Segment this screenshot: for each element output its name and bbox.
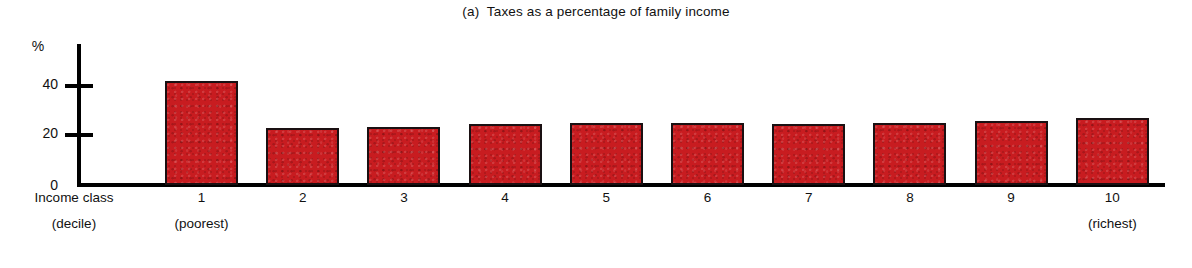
x-axis-label-number: 1	[143, 185, 260, 211]
x-axis-label-number: 3	[345, 185, 462, 211]
x-axis-label-group-3: 3	[345, 185, 462, 211]
x-axis-label-group-5: 5	[548, 185, 665, 211]
x-axis-label-group-1: 1(poorest)	[143, 185, 260, 237]
x-axis-label-number: 4	[447, 185, 564, 211]
x-axis-label-number: 5	[548, 185, 665, 211]
x-axis-label-number: 2	[244, 185, 361, 211]
plot-area: % 40 20 0	[0, 0, 1192, 200]
bar-chart-figure: (a) Taxes as a percentage of family inco…	[0, 0, 1192, 268]
bar-decile-6	[671, 123, 744, 185]
bars-layer	[0, 0, 1192, 185]
x-axis-label-number: 7	[750, 185, 867, 211]
x-axis-label-group-6: 6	[649, 185, 766, 211]
x-axis-label-group-2: 2	[244, 185, 361, 211]
bar-decile-1	[165, 81, 238, 185]
x-axis-label-group-8: 8	[851, 185, 968, 211]
bar-decile-10	[1076, 118, 1149, 185]
bar-decile-4	[469, 124, 542, 185]
bar-decile-3	[367, 127, 440, 185]
bar-decile-9	[975, 121, 1048, 185]
x-axis-label-note: (richest)	[1054, 211, 1171, 237]
x-axis-label-group-4: 4	[447, 185, 564, 211]
x-axis-label-number: 10	[1054, 185, 1171, 211]
x-axis-label-note: (poorest)	[143, 211, 260, 237]
x-axis-label-group-9: 9	[953, 185, 1070, 211]
bar-decile-5	[570, 123, 643, 185]
x-axis-label-group-10: 10(richest)	[1054, 185, 1171, 237]
x-axis-labels-layer: 1(poorest)2345678910(richest)	[0, 185, 1192, 268]
bar-decile-2	[266, 128, 339, 185]
bar-decile-8	[873, 123, 946, 185]
x-axis-label-number: 8	[851, 185, 968, 211]
bar-decile-7	[772, 124, 845, 185]
x-axis-label-number: 9	[953, 185, 1070, 211]
x-axis-label-group-7: 7	[750, 185, 867, 211]
x-axis-label-number: 6	[649, 185, 766, 211]
